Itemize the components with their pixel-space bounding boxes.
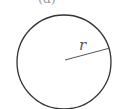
radius-label: r	[79, 36, 87, 54]
circle	[17, 15, 111, 109]
circle-diagram: r	[0, 0, 126, 109]
radius-line	[65, 48, 110, 60]
